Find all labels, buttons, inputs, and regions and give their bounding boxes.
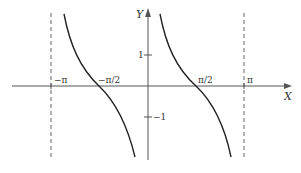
y-tick-label-neg1: −1	[153, 112, 166, 122]
y-axis-arrow-icon	[145, 8, 151, 17]
y-tick-label-1: 1	[138, 50, 144, 60]
cotangent-graph: Y X −π −π/2 π/2 π 1 −1	[0, 0, 301, 173]
x-tick-label-pi-half: π/2	[198, 75, 213, 85]
x-tick-label-neg-pi-half: −π/2	[98, 75, 120, 85]
x-tick-label-neg-pi: −π	[54, 75, 68, 85]
x-axis-label: X	[283, 90, 293, 103]
x-tick-label-pi: π	[247, 75, 253, 85]
y-axis-label: Y	[136, 8, 145, 21]
x-axis-arrow-icon	[284, 83, 292, 89]
